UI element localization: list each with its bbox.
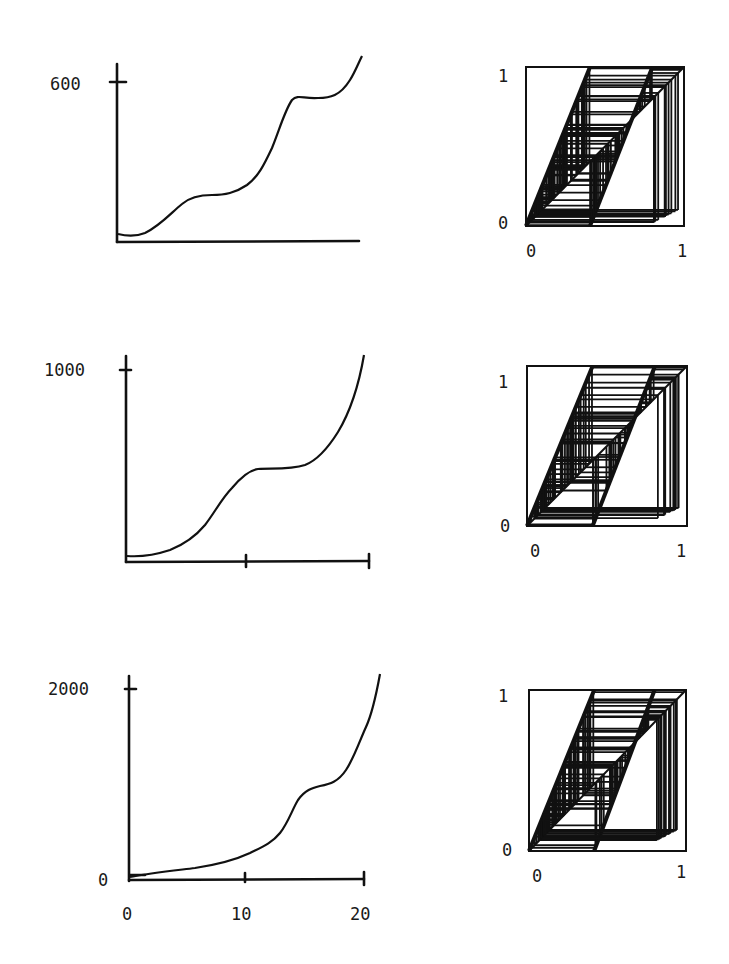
cobweb-chart-2-plot	[480, 350, 720, 570]
cobweb-chart-3: 1 0 0 1	[480, 670, 720, 890]
growth-chart-3: 2000 0 0 10 20	[0, 660, 400, 940]
growth-chart-2-plot	[0, 340, 390, 580]
growth-chart-1: 600	[0, 0, 380, 260]
cobweb-chart-1-plot	[460, 50, 720, 270]
growth-chart-2: 1000	[0, 340, 390, 580]
cobweb-chart-3-plot	[480, 670, 720, 890]
growth-chart-3-plot	[0, 660, 400, 940]
cobweb-chart-1: 1 0 0 1	[460, 50, 720, 270]
cobweb-chart-2: 1 0 0 1	[480, 350, 720, 570]
growth-chart-1-plot	[0, 0, 380, 260]
